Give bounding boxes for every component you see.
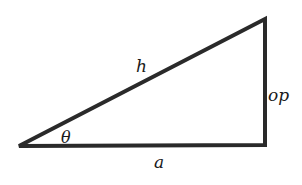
right-triangle-diagram: h op a θ <box>0 0 302 185</box>
triangle-shape <box>19 19 265 146</box>
hypotenuse-label: h <box>136 56 147 76</box>
adjacent-label: a <box>154 152 164 172</box>
opposite-label: op <box>268 85 289 105</box>
angle-theta-label: θ <box>61 128 71 147</box>
